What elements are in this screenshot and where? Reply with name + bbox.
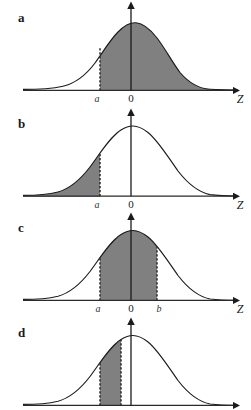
panel-a-axis-label-z: Z	[237, 92, 244, 106]
panel-d: d	[18, 324, 238, 406]
panel-c-axis-label-z: Z	[237, 302, 244, 316]
normal-distribution-figure: a a 0 Z b a 0 Z c a 0	[0, 0, 251, 410]
panel-b-tick-a: a	[95, 199, 100, 210]
panel-b: b a 0 Z	[18, 115, 244, 212]
figure-canvas: a a 0 Z b a 0 Z c a 0	[0, 0, 251, 410]
panel-c-letter: c	[18, 220, 24, 235]
panel-c-tick-zero: 0	[128, 302, 134, 314]
panel-b-letter: b	[18, 116, 25, 131]
panel-b-axis-label-z: Z	[237, 198, 244, 212]
panel-d-letter: d	[18, 325, 26, 340]
panel-c-tick-a: a	[96, 303, 101, 314]
panel-a-letter: a	[18, 10, 25, 25]
panel-c: c a 0 b Z	[18, 219, 244, 316]
panel-b-tick-zero: 0	[128, 198, 134, 210]
panel-a-tick-zero: 0	[128, 92, 134, 104]
panel-a: a a 0 Z	[18, 8, 244, 106]
panel-a-tick-a: a	[95, 93, 100, 104]
panel-c-tick-b: b	[157, 303, 162, 314]
